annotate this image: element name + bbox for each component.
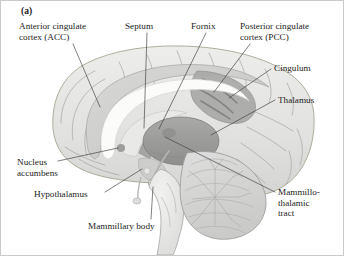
label-cingulum: Cingulum xyxy=(274,63,311,74)
label-anterior-cingulate-cortex: Anterior cingulate cortex (ACC) xyxy=(19,21,86,42)
label-mammillary-body: Mammillary body xyxy=(88,221,155,232)
figure-panel-a: (a) Anterior cingulate cortex (ACC) Sept… xyxy=(0,0,344,256)
label-nucleus-accumbens: Nucleus accumbens xyxy=(17,157,58,178)
label-septum: Septum xyxy=(125,21,153,32)
label-fornix: Fornix xyxy=(191,21,216,32)
panel-letter: (a) xyxy=(21,6,32,16)
label-hypothalamus: Hypothalamus xyxy=(34,189,88,200)
leader-mambody xyxy=(151,187,153,219)
label-posterior-cingulate-cortex: Posterior cingulate cortex (PCC) xyxy=(240,21,309,42)
label-mammillothalamic-tract: Mammillo- thalamic tract xyxy=(278,187,320,219)
label-thalamus: Thalamus xyxy=(278,95,314,106)
